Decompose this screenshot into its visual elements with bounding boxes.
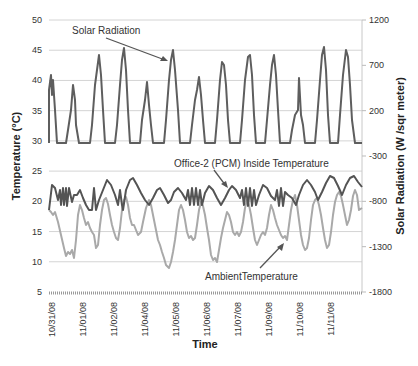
y-tick-label: 45	[32, 45, 42, 55]
right-y-axis-ticks: -1800-1300-800-3002007001200	[362, 15, 392, 297]
y-tick-label: 40	[32, 75, 42, 85]
y-tick-label: 35	[32, 106, 42, 116]
inside-temperature-line	[49, 176, 362, 210]
x-tick-label: 11/04/08	[140, 302, 150, 336]
solar-radiation-annotation: Solar Radiation	[72, 25, 140, 36]
inside-temperature-annotation: Office-2 (PCM) Inside Temperature	[174, 158, 329, 169]
x-tick-label: 11/11/08	[326, 302, 336, 336]
y-tick-label: 50	[32, 15, 42, 25]
solar-annotation-arrow	[106, 38, 165, 60]
y-tick-label: 20	[32, 196, 42, 206]
y-tick-label: 25	[32, 166, 42, 176]
x-tick-label: 11/06/08	[202, 302, 212, 336]
y-tick-label: 5	[37, 287, 42, 297]
solar-radiation-line	[49, 47, 362, 143]
x-tick-label: 11/10/08	[295, 302, 305, 336]
y-tick-label: 30	[32, 136, 42, 146]
right-y-axis-title: Solar Radiation (W /sqr meter)	[394, 77, 406, 235]
y-tick-label: 15	[32, 227, 42, 237]
x-axis-ticks: 10/31/0811/01/0811/02/0811/04/0811/05/08…	[47, 302, 336, 337]
x-tick-label: 11/09/08	[264, 302, 274, 336]
x-tick-label: 11/02/08	[109, 302, 119, 336]
x-tick-label: 11/01/08	[78, 302, 88, 336]
y2-tick-label: -300	[369, 151, 387, 161]
y2-tick-label: -800	[369, 196, 387, 206]
dual-axis-line-chart: 5101520253035404550 -1800-1300-800-30020…	[0, 0, 418, 366]
y2-tick-label: 1200	[369, 15, 389, 25]
y2-tick-label: 700	[369, 60, 384, 70]
y2-tick-label: -1800	[369, 287, 392, 297]
inside-arrow-head-icon	[221, 181, 228, 188]
ambient-annotation-arrow	[260, 245, 282, 268]
y2-tick-label: -1300	[369, 242, 392, 252]
x-tick-label: 11/05/08	[171, 302, 181, 336]
y-tick-label: 10	[32, 257, 42, 267]
left-y-axis-ticks: 5101520253035404550	[32, 15, 42, 297]
x-axis-title: Time	[192, 338, 217, 350]
y2-tick-label: 200	[369, 106, 384, 116]
x-tick-label: 10/31/08	[47, 302, 57, 337]
x-tick-label: 11/07/08	[233, 302, 243, 336]
ambient-temperature-annotation: AmbientTemperature	[205, 271, 298, 282]
left-y-axis-title: Temperature (°C)	[10, 111, 22, 200]
